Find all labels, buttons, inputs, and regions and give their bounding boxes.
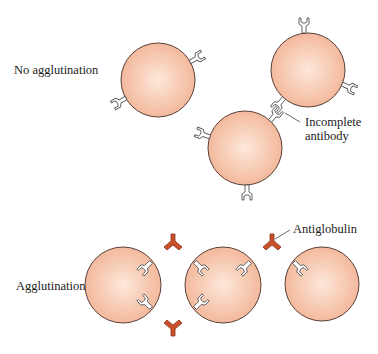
red-cell bbox=[85, 247, 161, 323]
red-cell-body bbox=[121, 43, 195, 117]
incomplete-antibody-icon bbox=[242, 185, 252, 200]
antiglobulin-icon bbox=[263, 234, 281, 250]
red-cell bbox=[285, 247, 359, 321]
no-agglutination-label: No agglutination bbox=[14, 63, 99, 77]
antiglobulin-label: Antiglobulin bbox=[293, 222, 358, 236]
red-cell bbox=[185, 247, 261, 323]
incomplete-antibody-leader bbox=[285, 113, 300, 122]
red-cell-body bbox=[285, 247, 359, 321]
antiglobulin-icon bbox=[164, 320, 182, 336]
red-cell-body bbox=[185, 247, 261, 323]
incomplete-antibody-icon bbox=[299, 18, 309, 33]
red-cell-body bbox=[85, 247, 161, 323]
incomplete-antibody-label-line1: Incomplete bbox=[305, 115, 362, 129]
agglutination-diagram: No agglutination Incomplete antibody Agg… bbox=[0, 0, 378, 354]
red-cell bbox=[194, 106, 283, 200]
agglutination-label: Agglutination bbox=[16, 279, 86, 293]
red-cell-body bbox=[271, 33, 345, 107]
antiglobulin-icon bbox=[164, 234, 182, 250]
incomplete-antibody-label-line2: antibody bbox=[305, 129, 349, 143]
red-cell bbox=[271, 18, 358, 113]
antiglobulin-leader bbox=[275, 230, 290, 239]
red-cell bbox=[111, 43, 206, 117]
